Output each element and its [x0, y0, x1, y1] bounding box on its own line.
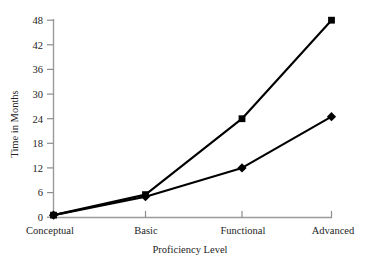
y-tick-label-18: 18: [33, 138, 44, 149]
line-chart: 48 42 36 30 24 18 12 6 0 Conceptual Basi…: [0, 0, 370, 266]
y-tick-label-30: 30: [33, 89, 44, 100]
x-tick-label-conceptual: Conceptual: [26, 225, 74, 236]
x-tick-label-advanced: Advanced: [312, 225, 355, 236]
y-tick-label-36: 36: [33, 64, 44, 75]
data-point-marker-square-functional: [239, 115, 246, 122]
y-tick-label-0: 0: [38, 212, 43, 223]
x-axis-title: Proficiency Level: [153, 244, 228, 255]
chart-canvas: 48 42 36 30 24 18 12 6 0 Conceptual Basi…: [0, 0, 370, 266]
data-point-marker-square-advanced: [328, 17, 335, 24]
y-tick-label-24: 24: [33, 114, 44, 125]
x-tick-label-functional: Functional: [221, 225, 266, 236]
x-tick-label-basic: Basic: [134, 225, 158, 236]
y-tick-label-48: 48: [33, 15, 44, 26]
y-axis-title: Time in Months: [9, 90, 20, 157]
y-tick-label-6: 6: [38, 187, 43, 198]
y-tick-label-42: 42: [33, 40, 44, 51]
y-tick-label-12: 12: [33, 163, 44, 174]
